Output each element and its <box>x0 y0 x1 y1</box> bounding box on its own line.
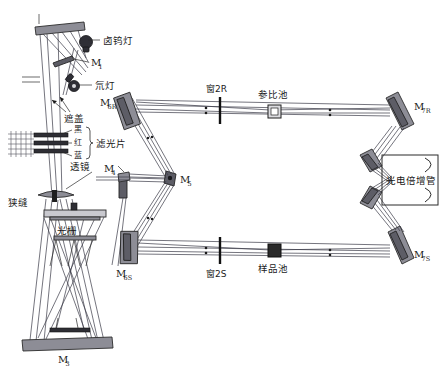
mirror-m6s <box>115 228 143 266</box>
svg-text:6S: 6S <box>124 274 133 282</box>
optical-path-diagram: 卤钨灯 M 1 氘灯 <box>0 0 442 368</box>
mirror-m7r <box>386 92 414 130</box>
svg-text:7S: 7S <box>422 255 431 263</box>
mirror-m6r <box>113 91 141 130</box>
beam-m4-to-m5 <box>96 174 168 182</box>
filter-stack <box>34 130 72 156</box>
window-2s-label: 窗2S <box>206 268 227 279</box>
mirror-m3-label: M 3 <box>58 354 70 368</box>
mirror-m1 <box>53 56 88 67</box>
mirror-m6s-label: M 6S <box>116 268 132 282</box>
filter-label: 滤光片 <box>96 138 126 149</box>
mirror-m7r-label: M 7R <box>414 101 432 115</box>
svg-text:4: 4 <box>112 169 116 177</box>
mirror-m7s <box>388 226 414 264</box>
window-2r-label: 窗2R <box>206 83 227 94</box>
mirror-m3 <box>22 318 113 351</box>
reference-cell-label: 参比池 <box>258 89 288 100</box>
mirror-m5-label: M 5 <box>180 174 192 188</box>
shutter-label: 遮盖 <box>64 113 84 124</box>
filter-blue-label: 蓝 <box>74 150 82 160</box>
grating-label: 光栅 <box>57 225 77 236</box>
mirror-m7s-label: M 7S <box>414 249 430 263</box>
filter-red-label: 红 <box>74 137 82 147</box>
mirror-m1-label: M 1 <box>91 57 103 71</box>
mirror-m4-label: M 4 <box>104 163 116 177</box>
photomultiplier-label: 光电倍增管 <box>386 175 436 186</box>
svg-text:6R: 6R <box>108 103 118 111</box>
beam-reference-arm <box>136 100 390 116</box>
svg-text:1: 1 <box>99 63 103 71</box>
slit <box>52 190 57 202</box>
mirror-m2 <box>35 14 85 35</box>
filter-black-label: 黑 <box>74 125 82 134</box>
deuterium-lamp <box>65 73 92 91</box>
reference-cell <box>268 105 281 118</box>
sample-cell-label: 样品池 <box>258 263 288 274</box>
tungsten-lamp-label: 卤钨灯 <box>103 35 133 46</box>
lens-label: 透镜 <box>70 161 90 172</box>
deuterium-lamp-label: 氘灯 <box>95 80 115 91</box>
mirror-m5 <box>164 171 176 186</box>
svg-text:3: 3 <box>66 360 70 368</box>
grating <box>44 203 106 220</box>
fold-mirror-lower <box>360 186 382 209</box>
beam-sample-arm <box>138 240 390 257</box>
svg-text:5: 5 <box>188 180 192 188</box>
tungsten-halogen-lamp <box>80 36 101 53</box>
sample-cell <box>268 244 281 257</box>
lens <box>38 172 92 198</box>
filter-grid-pattern <box>8 131 34 157</box>
slit-label: 狭缝 <box>8 197 28 208</box>
fold-mirror-upper <box>360 149 382 172</box>
svg-text:7R: 7R <box>422 107 432 115</box>
diagram-canvas: 卤钨灯 M 1 氘灯 <box>0 0 442 368</box>
